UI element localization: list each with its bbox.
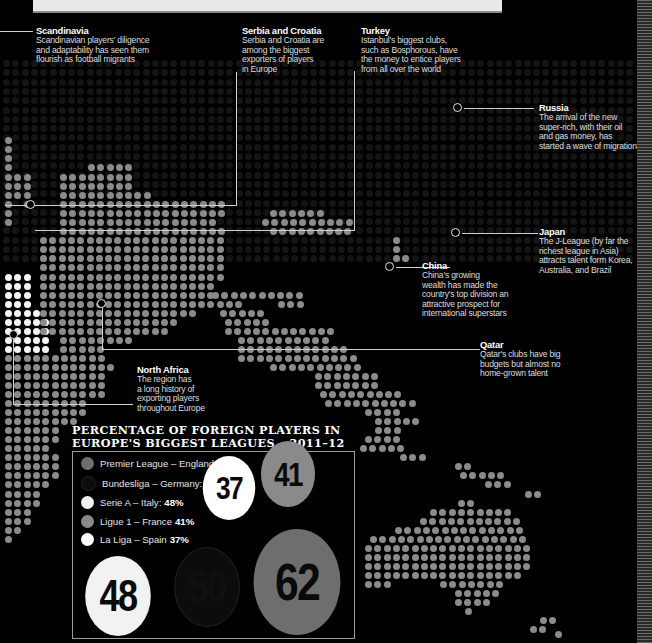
faint-map-dot	[580, 162, 587, 169]
faint-map-dot	[31, 116, 38, 123]
map-dot	[496, 581, 503, 588]
faint-map-dot	[282, 88, 289, 95]
faint-map-dot	[105, 79, 112, 86]
faint-map-dot	[254, 255, 261, 262]
map-dot	[69, 183, 76, 190]
map-dot	[362, 400, 369, 407]
faint-map-dot	[412, 190, 419, 197]
map-dot	[180, 264, 187, 271]
faint-map-dot	[152, 88, 159, 95]
faint-map-dot	[273, 153, 280, 160]
faint-map-dot	[580, 172, 587, 179]
faint-map-dot	[124, 97, 131, 104]
faint-map-dot	[245, 200, 252, 207]
map-dot	[374, 409, 381, 416]
faint-map-dot	[245, 88, 252, 95]
map-dot	[495, 563, 502, 570]
faint-map-dot	[161, 134, 168, 141]
faint-map-dot	[273, 125, 280, 132]
faint-map-dot	[254, 79, 261, 86]
map-dot	[435, 536, 442, 543]
map-dot	[226, 301, 233, 308]
map-dot	[114, 283, 121, 290]
map-dot	[375, 418, 382, 425]
faint-map-dot	[245, 134, 252, 141]
faint-map-dot	[412, 227, 419, 234]
faint-map-dot	[338, 209, 345, 216]
faint-map-dot	[22, 107, 29, 114]
map-dot	[42, 445, 49, 452]
faint-map-dot	[561, 218, 568, 225]
map-dot	[87, 246, 94, 253]
faint-map-dot	[496, 88, 503, 95]
faint-map-dot	[356, 218, 363, 225]
map-dot	[469, 472, 476, 479]
map-dot	[217, 246, 224, 253]
faint-map-dot	[366, 246, 373, 253]
map-dot	[318, 328, 325, 335]
faint-map-dot	[263, 190, 270, 197]
map-dot	[393, 237, 400, 244]
map-dot	[14, 319, 21, 326]
map-dot	[495, 572, 502, 579]
faint-map-dot	[468, 200, 475, 207]
faint-map-dot	[254, 218, 261, 225]
bubble-value: 48	[100, 571, 137, 621]
map-dot	[33, 355, 40, 362]
map-dot	[77, 255, 84, 262]
faint-map-dot	[347, 246, 354, 253]
legend-swatch-icon	[81, 476, 96, 491]
map-dot	[285, 355, 292, 362]
map-dot	[49, 274, 56, 281]
location-marker-icon	[385, 262, 394, 271]
faint-map-dot	[170, 181, 177, 188]
map-dot	[24, 355, 31, 362]
map-dot	[439, 554, 446, 561]
faint-map-dot	[589, 79, 596, 86]
faint-map-dot	[245, 79, 252, 86]
map-dot	[33, 491, 40, 498]
faint-map-dot	[170, 153, 177, 160]
faint-map-dot	[403, 181, 410, 188]
faint-map-dot	[487, 116, 494, 123]
map-dot	[42, 391, 49, 398]
leader-line	[5, 205, 237, 206]
map-dot	[87, 328, 94, 335]
faint-map-dot	[245, 218, 252, 225]
faint-map-dot	[31, 153, 38, 160]
faint-map-dot	[50, 209, 57, 216]
faint-map-dot	[366, 134, 373, 141]
faint-map-dot	[77, 134, 84, 141]
map-dot	[394, 418, 401, 425]
map-dot	[362, 373, 369, 380]
faint-map-dot	[59, 116, 66, 123]
faint-map-dot	[329, 107, 336, 114]
map-dot	[365, 554, 372, 561]
map-dot	[107, 164, 114, 171]
map-dot	[262, 319, 269, 326]
faint-map-dot	[254, 153, 261, 160]
callout-qatar: Qatar Qatar's clubs have big budgets but…	[480, 340, 570, 379]
faint-map-dot	[468, 153, 475, 160]
faint-map-dot	[608, 153, 615, 160]
map-dot	[24, 500, 31, 507]
map-dot	[266, 337, 273, 344]
map-dot	[388, 445, 395, 452]
map-dot	[514, 554, 521, 561]
faint-map-dot	[68, 125, 75, 132]
map-dot	[180, 301, 187, 308]
faint-map-dot	[329, 246, 336, 253]
faint-map-dot	[105, 88, 112, 95]
map-dot	[68, 310, 75, 317]
faint-map-dot	[412, 107, 419, 114]
faint-map-dot	[273, 134, 280, 141]
faint-map-dot	[40, 107, 47, 114]
faint-map-dot	[12, 255, 19, 262]
map-dot	[59, 319, 66, 326]
faint-map-dot	[524, 218, 531, 225]
faint-map-dot	[580, 60, 587, 67]
map-dot	[277, 292, 284, 299]
map-dot	[334, 400, 341, 407]
map-dot	[464, 599, 471, 606]
callout-line: from all over the world	[361, 64, 441, 74]
